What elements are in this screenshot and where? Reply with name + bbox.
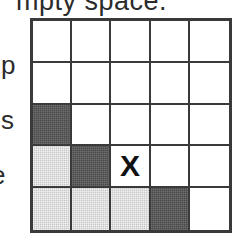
grid-cell[interactable]	[33, 188, 72, 230]
margin-letter-2: s	[1, 107, 26, 162]
grid-cell[interactable]	[33, 105, 72, 147]
grid-marker-x: X	[120, 151, 140, 181]
cropped-heading-text: mpty space.	[16, 0, 167, 15]
grid-cell[interactable]	[33, 63, 72, 105]
margin-letter-3: e	[0, 162, 26, 217]
grid-cell[interactable]	[111, 21, 150, 63]
grid-cell[interactable]	[190, 146, 229, 188]
puzzle-grid[interactable]: X	[30, 18, 232, 233]
grid-cell[interactable]	[72, 63, 111, 105]
grid-cell[interactable]	[151, 21, 190, 63]
grid-cell[interactable]	[111, 105, 150, 147]
grid-cell[interactable]	[151, 105, 190, 147]
grid-cell[interactable]	[151, 146, 190, 188]
margin-letter-1: p	[1, 52, 26, 107]
grid-cell[interactable]: X	[111, 146, 150, 188]
grid-cell[interactable]	[72, 105, 111, 147]
grid-cell[interactable]	[190, 21, 229, 63]
grid-cell[interactable]	[33, 146, 72, 188]
left-margin-text-fragments: p s e	[0, 52, 26, 217]
grid-cell[interactable]	[72, 21, 111, 63]
grid-cell[interactable]	[190, 63, 229, 105]
grid-cell[interactable]	[190, 105, 229, 147]
grid-cell[interactable]	[33, 21, 72, 63]
grid-cell[interactable]	[72, 188, 111, 230]
grid-cell[interactable]	[111, 63, 150, 105]
grid-cell[interactable]	[111, 188, 150, 230]
grid-cell[interactable]	[151, 188, 190, 230]
grid-cell[interactable]	[190, 188, 229, 230]
grid-cell[interactable]	[72, 146, 111, 188]
grid-cell[interactable]	[151, 63, 190, 105]
